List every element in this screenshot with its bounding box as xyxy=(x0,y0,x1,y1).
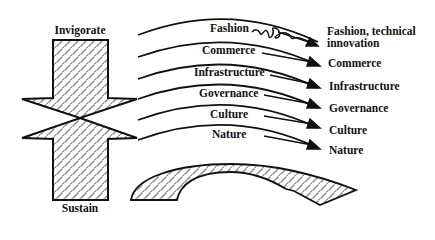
layer-label-nature: Nature xyxy=(212,128,246,140)
layer-label-culture: Culture xyxy=(210,108,248,120)
layer-label-fashion: Fashion xyxy=(210,22,249,34)
outcome-label-culture: Culture xyxy=(329,124,367,136)
invigorate-label: Invigorate xyxy=(54,24,105,36)
cycle-curved-arrow xyxy=(130,163,360,205)
outcome-label-infrastructure: Infrastructure xyxy=(329,80,400,92)
outcome-label-governance: Governance xyxy=(329,102,388,114)
layer-label-governance: Governance xyxy=(199,87,258,99)
sustain-label: Sustain xyxy=(62,202,98,214)
outcome-label-commerce: Commerce xyxy=(328,57,381,69)
invigorate-sustain-double-arrow xyxy=(22,40,137,200)
outcome-label-nature: Nature xyxy=(329,144,363,156)
layer-label-infrastructure: Infrastructure xyxy=(194,66,265,78)
outcome-label-fashion: Fashion, technical xyxy=(327,25,416,37)
outcome-label-fashion-line2: innovation xyxy=(327,37,379,49)
layer-label-commerce: Commerce xyxy=(202,44,255,56)
